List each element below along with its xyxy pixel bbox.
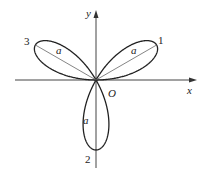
- x-axis-label: x: [186, 84, 192, 96]
- leaf-1-length-label: a: [131, 44, 137, 56]
- leaf-2-length-label: a: [83, 114, 89, 126]
- y-axis-label: y: [85, 7, 91, 19]
- origin-label: O: [108, 87, 116, 99]
- leaf-3-length-label: a: [56, 44, 62, 56]
- x-axis-arrow-icon: [189, 78, 197, 83]
- diagram-svg: 1 2 3 a a a O x y: [0, 0, 205, 175]
- rose-curve-diagram: 1 2 3 a a a O x y: [0, 0, 205, 175]
- leaf-2-number: 2: [85, 153, 91, 165]
- y-axis-arrow-icon: [94, 10, 99, 18]
- leaf-1-number: 1: [158, 34, 164, 46]
- leaf-3-number: 3: [24, 35, 30, 47]
